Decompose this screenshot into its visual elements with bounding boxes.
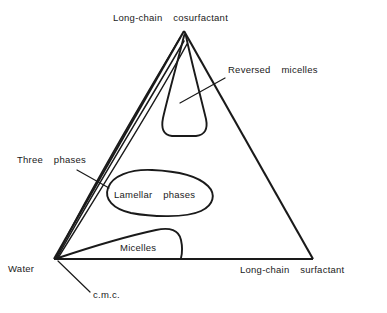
ternary-phase-diagram: Long-chain cosurfactant Reversed micelle… [0,0,387,313]
label-lamellar-phases: Lamellar phases [114,189,195,200]
three-phases-region [56,38,187,258]
label-cmc: c.m.c. [93,289,120,300]
phase-diagram-canvas: Long-chain cosurfactant Reversed micelle… [0,0,387,313]
label-micelles: Micelles [120,242,156,253]
label-reversed-micelles: Reversed micelles [228,64,318,75]
label-three-phases: Three phases [17,154,86,165]
label-long-chain-surfactant: Long-chain surfactant [240,264,345,275]
cmc-leader-line [58,261,90,292]
three-phases-boundary-outer [58,44,187,258]
three-phases-boundary-middle [57,41,184,258]
label-water: Water [8,263,34,274]
label-long-chain-cosurfactant: Long-chain cosurfactant [113,12,228,23]
